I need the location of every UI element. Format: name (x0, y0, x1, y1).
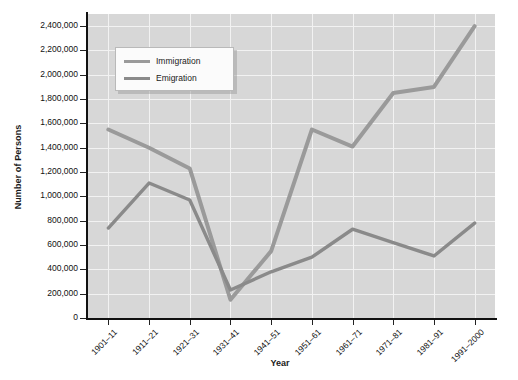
x-axis-tick (393, 320, 394, 325)
x-axis-title: Year (0, 358, 518, 368)
legend-swatch-emigration (124, 77, 150, 80)
y-axis-tick (80, 123, 86, 124)
y-axis-tick-label: 0 (8, 312, 78, 322)
x-axis-tick (108, 320, 109, 325)
legend-label-emigration: Emigration (156, 73, 197, 83)
legend-swatch-immigration (124, 60, 150, 63)
gridline-vertical (271, 14, 272, 318)
y-axis-line (86, 12, 88, 320)
x-axis-tick (230, 320, 231, 325)
x-axis-tick (271, 320, 272, 325)
gridline-vertical (475, 14, 476, 318)
x-axis-tick (434, 320, 435, 325)
x-axis-line (86, 318, 497, 320)
gridline-vertical (434, 14, 435, 318)
x-axis-tick (149, 320, 150, 325)
gridline-vertical (353, 14, 354, 318)
y-axis-tick (80, 26, 86, 27)
legend-item-immigration: Immigration (124, 55, 200, 67)
gridline-vertical (312, 14, 313, 318)
line-chart-figure: 0200,000400,000600,000800,0001,000,0001,… (0, 0, 518, 380)
y-axis-tick (80, 196, 86, 197)
y-axis-tick (80, 269, 86, 270)
y-axis-tick-label: 2,400,000 (8, 20, 78, 30)
y-axis-tick (80, 318, 86, 319)
y-axis-tick-label: 600,000 (8, 239, 78, 249)
gridline-vertical (108, 14, 109, 318)
x-axis-tick (190, 320, 191, 325)
y-axis-tick (80, 99, 86, 100)
y-axis-tick-label: 2,000,000 (8, 69, 78, 79)
y-axis-tick (80, 148, 86, 149)
x-axis-tick (353, 320, 354, 325)
gridline-vertical (393, 14, 394, 318)
y-axis-tick-labels: 0200,000400,000600,000800,0001,000,0001,… (0, 0, 78, 380)
y-axis-tick-label: 200,000 (8, 288, 78, 298)
y-axis-tick (80, 75, 86, 76)
y-axis-tick-label: 400,000 (8, 263, 78, 273)
y-axis-tick (80, 221, 86, 222)
y-axis-tick (80, 245, 86, 246)
x-axis-tick (312, 320, 313, 325)
y-axis-tick (80, 50, 86, 51)
legend: Immigration Emigration (115, 47, 234, 91)
y-axis-tick (80, 294, 86, 295)
legend-label-immigration: Immigration (156, 56, 200, 66)
y-axis-tick (80, 172, 86, 173)
y-axis-title: Number of Persons (13, 97, 23, 237)
y-axis-tick-label: 2,200,000 (8, 44, 78, 54)
x-axis-tick (475, 320, 476, 325)
legend-item-emigration: Emigration (124, 72, 197, 84)
